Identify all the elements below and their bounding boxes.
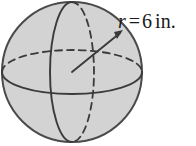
- radius-label: r=6in.: [118, 11, 176, 31]
- radius-variable: r: [118, 10, 127, 32]
- equals-sign: =: [127, 10, 142, 32]
- sphere-figure: r=6in.: [0, 0, 196, 146]
- radius-unit: in.: [152, 10, 176, 32]
- radius-value: 6: [142, 10, 152, 32]
